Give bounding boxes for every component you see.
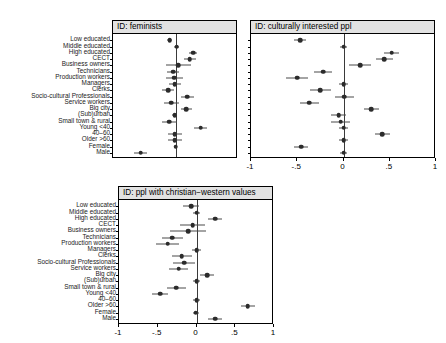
y-axis-tick: [110, 72, 113, 73]
y-axis-tick: [116, 244, 119, 245]
estimate-point: [318, 88, 323, 93]
y-axis-tick: [110, 78, 113, 79]
y-axis-tick: [110, 140, 113, 141]
y-axis-tick: [248, 115, 251, 116]
y-axis-tick: [248, 90, 251, 91]
y-axis-tick: [248, 109, 251, 110]
estimate-point: [198, 125, 203, 130]
estimate-point: [194, 210, 199, 215]
plot-inner-feminists: [113, 34, 236, 157]
forest-plot-figure: ID: feminists Low educatedMiddle educate…: [0, 0, 446, 343]
x-axis-tick-label: 1: [271, 328, 275, 337]
estimate-point: [169, 100, 174, 105]
y-axis-tick: [116, 206, 119, 207]
plot-area-feminists: [112, 33, 237, 158]
estimate-point: [194, 248, 199, 253]
x-axis-tick: [157, 324, 158, 327]
estimate-point: [158, 291, 163, 296]
estimate-point: [170, 235, 175, 240]
estimate-point: [193, 310, 198, 315]
estimate-point: [213, 316, 218, 321]
y-axis-tick: [116, 213, 119, 214]
estimate-point: [341, 125, 346, 130]
y-axis-tick: [248, 122, 251, 123]
x-axis-culturally-interested: -1-.50.51: [250, 158, 435, 172]
y-axis-tick: [110, 40, 113, 41]
estimate-point: [189, 204, 194, 209]
y-axis-tick: [116, 269, 119, 270]
x-axis-christian-western: -1-.50.51: [118, 324, 273, 338]
y-axis-label: Male: [102, 315, 116, 321]
y-axis-tick: [110, 65, 113, 66]
y-axis-tick: [248, 59, 251, 60]
estimate-point: [138, 150, 143, 155]
estimate-point: [245, 304, 250, 309]
y-axis-tick: [116, 263, 119, 264]
panel-title-culturally-interested: ID: culturally interested ppl: [250, 20, 435, 33]
y-axis-tick: [248, 128, 251, 129]
y-axis-tick: [116, 256, 119, 257]
x-axis-tick-label: -1: [246, 162, 253, 171]
x-axis-tick: [343, 158, 344, 161]
y-axis-label: Male: [96, 149, 110, 155]
estimate-point: [188, 57, 193, 62]
estimate-point: [358, 63, 363, 68]
plot-area-christian-western: [118, 199, 273, 324]
estimate-point: [172, 75, 177, 80]
estimate-point: [299, 144, 304, 149]
x-axis-tick-label: .5: [231, 328, 238, 337]
estimate-point: [166, 88, 171, 93]
x-axis-tick-label: .5: [385, 162, 392, 171]
estimate-point: [186, 229, 191, 234]
estimate-point: [307, 100, 312, 105]
x-axis-tick-label: 0: [193, 328, 197, 337]
y-axis-tick: [248, 47, 251, 48]
y-axis-tick: [110, 103, 113, 104]
estimate-point: [341, 82, 346, 87]
x-axis-tick: [389, 158, 390, 161]
x-axis-tick-label: 0: [340, 162, 344, 171]
y-axis-tick: [116, 219, 119, 220]
estimate-point: [173, 82, 178, 87]
x-axis-tick-label: -.5: [292, 162, 301, 171]
y-axis-tick: [110, 147, 113, 148]
estimate-point: [194, 279, 199, 284]
x-axis-tick-label: -.5: [152, 328, 161, 337]
estimate-point: [179, 254, 184, 259]
estimate-point: [369, 107, 374, 112]
x-axis-tick: [273, 324, 274, 327]
x-axis-tick: [296, 158, 297, 161]
y-axis-tick: [248, 65, 251, 66]
zero-reference-line: [197, 200, 198, 323]
estimate-point: [321, 69, 326, 74]
estimate-point: [182, 260, 187, 265]
estimate-point: [341, 44, 346, 49]
y-axis-tick: [248, 78, 251, 79]
y-axis-tick: [248, 134, 251, 135]
estimate-point: [295, 75, 300, 80]
y-axis-tick: [116, 225, 119, 226]
estimate-point: [167, 119, 172, 124]
y-axis-tick: [110, 153, 113, 154]
y-axis-tick: [116, 275, 119, 276]
estimate-point: [341, 138, 346, 143]
estimate-point: [173, 138, 178, 143]
x-axis-tick-label: 1: [433, 162, 437, 171]
panel-culturally-interested: ID: culturally interested ppl -1-.50.51: [250, 20, 435, 158]
estimate-point: [213, 216, 218, 221]
plot-inner-christian-western: [119, 200, 272, 323]
estimate-point: [338, 119, 343, 124]
plot-area-culturally-interested: [250, 33, 435, 158]
y-axis-tick: [248, 97, 251, 98]
y-axis-tick: [116, 238, 119, 239]
estimate-point: [174, 285, 179, 290]
y-axis-tick: [248, 40, 251, 41]
y-axis-tick: [116, 231, 119, 232]
estimate-point: [190, 223, 195, 228]
estimate-point: [184, 107, 189, 112]
x-axis-tick: [435, 158, 436, 161]
estimate-point: [194, 298, 199, 303]
estimate-point: [168, 38, 173, 43]
y-axis-tick: [110, 97, 113, 98]
y-axis-tick: [116, 281, 119, 282]
